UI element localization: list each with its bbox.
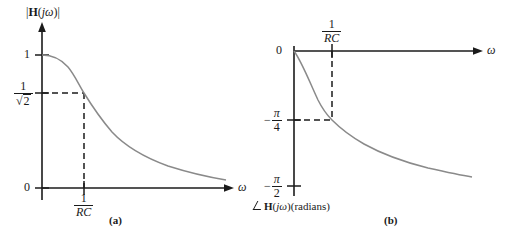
panel-a-ytick-label-0: 0 (24, 181, 30, 193)
figure-root: |H(jω)| 1 1 √2 0 1 RC ω (a) (0, 0, 508, 239)
panel-b-caption: (b) (384, 214, 397, 226)
fraction-denominator: RC (322, 32, 341, 45)
panel-b-ytick-label-neg-pi-over-2: − π 2 (264, 173, 282, 199)
panel-a-x-axis-label: ω (238, 181, 246, 193)
negative-fraction-pi-over-2: − π 2 (264, 173, 282, 199)
panel-a-y-axis-label-bar-right: | (58, 5, 60, 19)
panel-b-y-axis-label-omega: ω (279, 200, 287, 212)
panel-b-y-axis-label: H(jω)(radians) (255, 200, 330, 212)
panel-b-ytick-label-0: 0 (276, 44, 282, 56)
fraction-numerator: π (272, 173, 282, 187)
panel-b-y-axis-label-H: H (264, 200, 273, 212)
fraction-numerator: 1 (322, 18, 341, 32)
panel-a-magnitude-curve (42, 55, 226, 180)
panel-b-x-axis-arrowhead (473, 47, 483, 55)
panel-b-x-axis-label: ω (487, 44, 495, 56)
panel-b-phase-curve (294, 51, 472, 177)
panel-a-magnitude-plot: |H(jω)| 1 1 √2 0 1 RC ω (a) (0, 0, 254, 239)
fraction-numerator: 1 (14, 80, 33, 94)
fraction-one-over-RC: 1 RC (322, 18, 341, 44)
panel-a-y-axis-label: |H(jω)| (26, 6, 60, 18)
fraction-denominator: 4 (272, 121, 282, 134)
fraction-denominator: RC (74, 206, 93, 219)
fraction-numerator: 1 (74, 192, 93, 206)
fraction: π 2 (272, 173, 282, 199)
panel-a-y-axis-label-H: H (28, 5, 37, 19)
fraction-denominator: √2 (14, 94, 33, 108)
radicand: 2 (23, 94, 31, 108)
radical-sign: √ (16, 95, 23, 108)
panel-b-ytick-label-neg-pi-over-4: − π 4 (264, 107, 282, 133)
negative-fraction-pi-over-4: − π 4 (264, 107, 282, 133)
fraction: π 4 (272, 107, 282, 133)
panel-a-ytick-label-1: 1 (24, 48, 30, 60)
panel-a-xtick-label-1-over-RC: 1 RC (74, 192, 93, 218)
panel-b-phase-plot: 0 1 RC − π 4 − π 2 ω H(jω (254, 0, 508, 239)
panel-a-y-axis-label-omega: ω (45, 5, 53, 19)
panel-a-y-axis-arrowhead (38, 22, 46, 32)
fraction-one-over-sqrt-two: 1 √2 (14, 80, 33, 107)
panel-b-xtick-label-1-over-RC: 1 RC (322, 18, 341, 44)
fraction-numerator: π (272, 107, 282, 121)
fraction-denominator: 2 (272, 187, 282, 200)
minus-sign: − (264, 114, 272, 126)
panel-a-caption: (a) (109, 214, 122, 226)
panel-a-svg (0, 0, 254, 239)
panel-a-x-axis-arrowhead (224, 184, 234, 192)
fraction-one-over-RC: 1 RC (74, 192, 93, 218)
panel-b-y-axis-label-units: (radians) (291, 200, 330, 212)
minus-sign: − (264, 180, 272, 192)
panel-a-ytick-label-1-over-sqrt2: 1 √2 (14, 80, 33, 107)
